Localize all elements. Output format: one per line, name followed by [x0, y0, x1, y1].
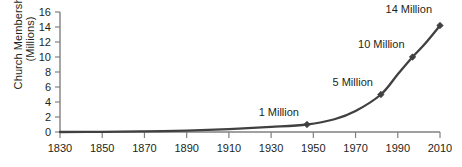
x-tick-label: 2010 — [428, 142, 452, 154]
data-point-label: 14 Million — [386, 3, 432, 15]
y-tick-label: 16 — [39, 6, 51, 18]
x-tick-label: 1890 — [174, 142, 198, 154]
x-tick-label: 1990 — [386, 142, 410, 154]
data-point-annotations: 1 Million5 Million10 Million14 Million — [259, 3, 432, 118]
plot-area: 0246810121416 18301850187018901910193019… — [0, 0, 462, 167]
data-point-label: 1 Million — [259, 106, 299, 118]
y-tick-label: 6 — [45, 81, 51, 93]
y-tick-label: 10 — [39, 51, 51, 63]
y-tick-label: 2 — [45, 111, 51, 123]
x-tick-label: 1970 — [343, 142, 367, 154]
x-tick-label: 1910 — [217, 142, 241, 154]
x-tick-label: 1930 — [259, 142, 283, 154]
data-point-label: 5 Million — [333, 76, 373, 88]
y-axis-ticks: 0246810121416 — [39, 6, 60, 138]
x-tick-label: 1950 — [301, 142, 325, 154]
data-point-label: 10 Million — [358, 38, 404, 50]
y-tick-label: 12 — [39, 36, 51, 48]
x-tick-label: 1850 — [90, 142, 114, 154]
data-point-marker — [304, 121, 310, 127]
y-tick-label: 4 — [45, 96, 51, 108]
y-tick-label: 14 — [39, 21, 51, 33]
x-tick-label: 1830 — [48, 142, 72, 154]
x-axis-ticks: 1830185018701890191019301950197019902010 — [48, 132, 452, 154]
y-tick-label: 0 — [45, 126, 51, 138]
church-membership-chart: Church Membership (Millions) 02468101214… — [0, 0, 462, 167]
x-tick-label: 1870 — [132, 142, 156, 154]
y-tick-label: 8 — [45, 66, 51, 78]
